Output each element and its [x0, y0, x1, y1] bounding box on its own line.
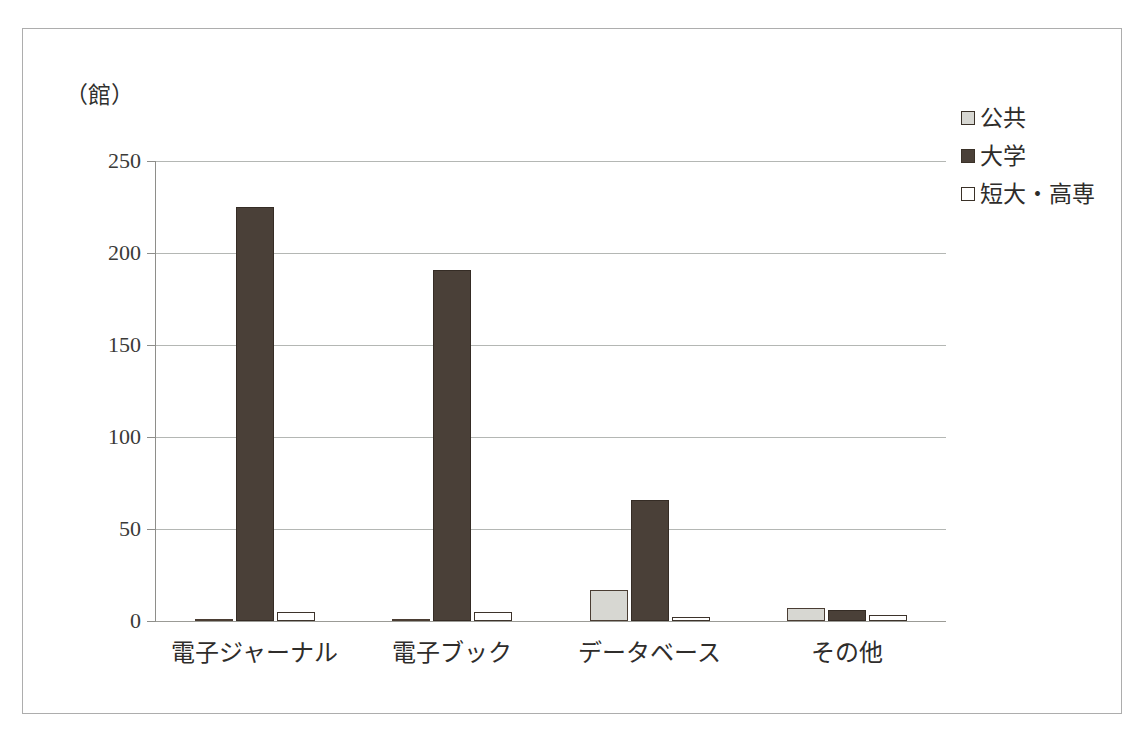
legend-swatch-daigaku-icon: [961, 149, 975, 163]
x-axis-category-label-2: データベース: [578, 633, 721, 668]
bar-0-2[interactable]: [277, 612, 315, 621]
legend-item-kokyo[interactable]: 公共: [961, 99, 1141, 137]
legend-label-kokyo: 公共: [980, 107, 1026, 130]
bar-2-1[interactable]: [631, 500, 669, 621]
legend-label-tandai: 短大・高専: [980, 183, 1095, 206]
legend-swatch-tandai-icon: [961, 187, 975, 201]
gridline-50: [156, 529, 946, 530]
y-tick-150: [147, 345, 156, 346]
legend-swatch-kokyo-icon: [961, 111, 975, 125]
bar-0-0[interactable]: [195, 619, 233, 621]
chart-frame: （館） 公共 大学 短大・高専 050100150200250 電子ジャーナル電…: [22, 28, 1122, 714]
bar-1-1[interactable]: [433, 270, 471, 621]
x-axis-category-label-3: その他: [811, 633, 883, 668]
bar-2-0[interactable]: [590, 590, 628, 621]
y-tick-250: [147, 161, 156, 162]
bar-3-1[interactable]: [828, 610, 866, 621]
legend-item-daigaku[interactable]: 大学: [961, 137, 1141, 175]
y-axis-labels: 050100150200250: [23, 161, 141, 622]
y-axis-tick-label-150: 150: [108, 332, 141, 358]
legend-label-daigaku: 大学: [980, 145, 1026, 168]
y-axis-tick-label-200: 200: [108, 240, 141, 266]
y-axis-unit-caption: （館）: [65, 76, 134, 110]
y-axis-tick-label-100: 100: [108, 424, 141, 450]
plot-area: [156, 161, 946, 621]
bar-0-1[interactable]: [236, 207, 274, 621]
y-tick-0: [147, 621, 156, 622]
y-axis-tick-label-0: 0: [130, 608, 141, 634]
x-axis-category-label-1: 電子ブック: [392, 633, 512, 668]
y-axis-tick-label-250: 250: [108, 148, 141, 174]
x-axis-category-label-0: 電子ジャーナル: [171, 633, 338, 668]
y-axis-line: [155, 161, 156, 622]
bar-3-0[interactable]: [787, 608, 825, 621]
bar-1-0[interactable]: [392, 619, 430, 621]
y-tick-50: [147, 529, 156, 530]
bar-2-2[interactable]: [672, 617, 710, 621]
gridline-150: [156, 345, 946, 346]
gridline-200: [156, 253, 946, 254]
gridline-250: [156, 161, 946, 162]
x-axis-labels: 電子ジャーナル電子ブックデータベースその他: [156, 633, 946, 677]
bar-1-2[interactable]: [474, 612, 512, 621]
legend-item-tandai[interactable]: 短大・高専: [961, 175, 1141, 213]
y-tick-100: [147, 437, 156, 438]
gridline-100: [156, 437, 946, 438]
x-axis-baseline: [148, 621, 946, 622]
y-axis-tick-label-50: 50: [119, 516, 141, 542]
bar-3-2[interactable]: [869, 615, 907, 621]
y-tick-200: [147, 253, 156, 254]
chart-legend: 公共 大学 短大・高専: [961, 99, 1141, 213]
